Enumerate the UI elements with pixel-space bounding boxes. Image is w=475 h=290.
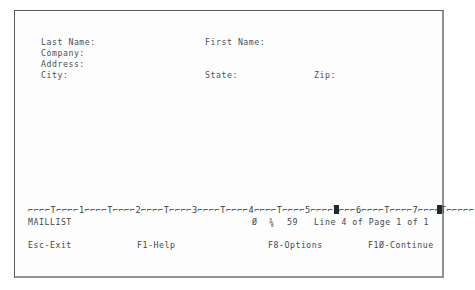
fkey-f10-continue[interactable]: F1Ø-Continue: [368, 239, 434, 251]
field-label-company: Company:: [41, 48, 85, 59]
function-key-bar: Esc-Exit F1-Help F8-Options F1Ø-Continue: [15, 239, 442, 253]
field-label-last-name: Last Name:: [41, 37, 96, 48]
status-style-indicator: ⅜: [269, 216, 274, 228]
status-document-name: MAILLIST: [28, 216, 72, 228]
status-bar: MAILLIST Ø ⅜ 59 Line 4 of Page 1 of 1: [15, 216, 442, 230]
field-label-state: State:: [205, 70, 238, 81]
status-line-page-info: Line 4 of Page 1 of 1: [314, 216, 429, 228]
field-label-address: Address:: [41, 59, 85, 70]
terminal-screen: Last Name: First Name: Company: Address:…: [15, 11, 442, 276]
terminal-window-frame: Last Name: First Name: Company: Address:…: [14, 10, 444, 278]
fkey-f8-options[interactable]: F8-Options: [268, 239, 323, 251]
ruler-scale: ⌐⌐⌐⌐T⌐⌐⌐⌐1⌐⌐⌐⌐T⌐⌐⌐⌐2⌐⌐⌐⌐T⌐⌐⌐⌐3⌐⌐⌐⌐T⌐⌐⌐⌐4…: [28, 204, 475, 216]
fkey-esc-exit[interactable]: Esc-Exit: [28, 239, 72, 251]
form-entry-area[interactable]: Last Name: First Name: Company: Address:…: [15, 11, 442, 201]
status-width-indicator: 59: [287, 216, 298, 228]
field-label-city: City:: [41, 70, 68, 81]
fkey-f1-help[interactable]: F1-Help: [137, 239, 175, 251]
ruler-right-margin-marker[interactable]: [437, 205, 442, 214]
ruler-block-marker[interactable]: [334, 205, 339, 214]
field-label-first-name: First Name:: [205, 37, 265, 48]
status-column-indicator: Ø: [252, 216, 257, 228]
field-label-zip: Zip:: [314, 70, 336, 81]
